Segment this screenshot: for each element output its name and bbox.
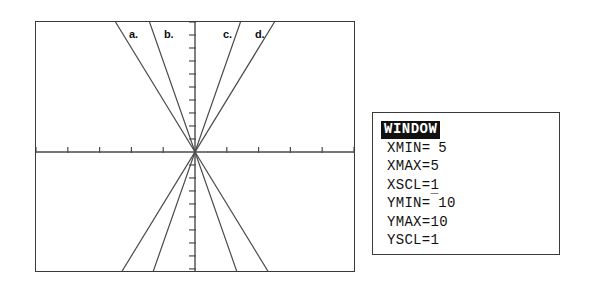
line-label-c: c. xyxy=(223,29,232,40)
window-setting-value: 10 xyxy=(431,214,448,230)
window-settings-list: XMIN=¯5XMAX=5XSCL=1YMIN=¯10YMAX=10YSCL=1 xyxy=(373,139,559,250)
window-setting-key: YMAX= xyxy=(387,214,431,230)
window-setting-key: YSCL= xyxy=(387,232,431,248)
window-setting-key: XMIN= xyxy=(387,140,431,156)
graph-panel: a. b. c. d. xyxy=(35,21,355,272)
line-label-a: a. xyxy=(129,29,138,40)
window-setting-value: 1 xyxy=(431,177,440,193)
line-label-d: d. xyxy=(255,29,264,40)
screenshot-stage: a. b. c. d. WINDOW XMIN=¯5XMAX=5XSCL=1YM… xyxy=(0,0,604,296)
window-setting-row[interactable]: YMAX=10 xyxy=(387,213,559,231)
negative-sign-glyph: ¯ xyxy=(431,137,439,152)
negative-sign-glyph: ¯ xyxy=(431,192,439,207)
window-setting-row[interactable]: XMIN=¯5 xyxy=(387,139,559,157)
window-setting-row[interactable]: YMIN=¯10 xyxy=(387,194,559,212)
window-setting-row[interactable]: YSCL=1 xyxy=(387,231,559,249)
window-setting-value: 10 xyxy=(438,195,455,211)
window-setting-row[interactable]: XMAX=5 xyxy=(387,157,559,175)
window-setting-key: XSCL= xyxy=(387,177,431,193)
window-settings-panel: WINDOW XMIN=¯5XMAX=5XSCL=1YMIN=¯10YMAX=1… xyxy=(372,112,560,255)
window-setting-value: 5 xyxy=(438,140,447,156)
window-setting-value: 1 xyxy=(431,232,440,248)
window-setting-key: XMAX= xyxy=(387,158,431,174)
graph-plot xyxy=(36,22,354,271)
window-setting-value: 5 xyxy=(431,158,440,174)
line-label-b: b. xyxy=(164,29,173,40)
window-setting-key: YMIN= xyxy=(387,195,431,211)
axis-group xyxy=(36,22,354,271)
window-setting-row[interactable]: XSCL=1 xyxy=(387,176,559,194)
